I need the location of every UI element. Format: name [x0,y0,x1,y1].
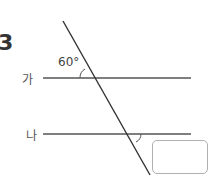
angle-arc-60 [80,69,85,78]
line-label-ga: 가 [22,70,33,87]
transversal-line [63,21,150,175]
line-label-na: 나 [26,126,37,143]
angle-arc-unknown [136,134,141,142]
answer-box[interactable] [152,140,208,174]
given-angle-label: 60° [58,55,79,69]
